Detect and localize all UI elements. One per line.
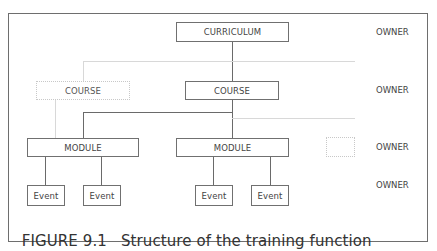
node-event: Event bbox=[83, 185, 121, 206]
node-module-left: MODULE bbox=[27, 138, 139, 157]
connector-module-left-horizontal bbox=[83, 112, 233, 113]
figure-title: Structure of the training function bbox=[121, 232, 372, 250]
node-course-left: COURSE bbox=[36, 81, 130, 100]
owner-label-curriculum: OWNER bbox=[376, 27, 409, 37]
connector-module-center-event-1 bbox=[213, 157, 214, 185]
node-event: Event bbox=[27, 185, 65, 206]
connector-module-left-drop bbox=[83, 112, 84, 138]
figure-frame bbox=[8, 13, 428, 242]
owner-label-event: OWNER bbox=[376, 180, 409, 190]
connector-course-left-module bbox=[55, 100, 56, 138]
node-event: Event bbox=[251, 185, 289, 206]
connector-module-left-event-1 bbox=[45, 157, 46, 185]
owner-label-module: OWNER bbox=[376, 142, 409, 152]
owner-label-course: OWNER bbox=[376, 85, 409, 95]
connector-module-level-dotted bbox=[232, 118, 355, 119]
connector-course-level-dotted bbox=[83, 61, 355, 62]
connector-course-left-drop bbox=[83, 61, 84, 81]
node-curriculum: CURRICULUM bbox=[176, 22, 289, 42]
figure-caption: FIGURE 9.1Structure of the training func… bbox=[12, 214, 372, 250]
node-module-placeholder bbox=[326, 137, 355, 157]
connector-module-center-event-2 bbox=[270, 157, 271, 185]
figure-number: FIGURE 9.1 bbox=[22, 232, 107, 250]
connector-module-left-event-2 bbox=[101, 157, 102, 185]
node-event: Event bbox=[195, 185, 233, 206]
node-module-center: MODULE bbox=[176, 138, 289, 157]
connector-course-module bbox=[232, 100, 233, 138]
node-course-center: COURSE bbox=[185, 81, 279, 100]
